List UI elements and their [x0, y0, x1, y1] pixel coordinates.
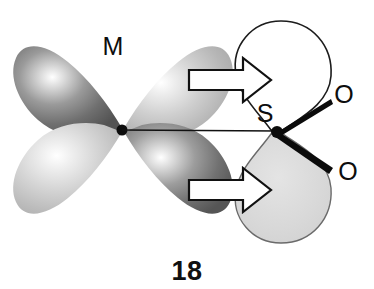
- sulfur-center-dot: [271, 126, 283, 138]
- diagram-canvas: M S O O 18: [0, 0, 374, 289]
- bond-metal-sulfur: [122, 130, 277, 131]
- atom-label-sulfur: S: [257, 99, 274, 127]
- metal-lobe-lower-left: [13, 123, 122, 214]
- orbital-interaction-figure: M S O O 18: [0, 0, 374, 289]
- figure-number-label: 18: [171, 256, 202, 286]
- atom-label-oxygen-upper: O: [334, 80, 353, 108]
- atom-label-metal: M: [103, 32, 124, 60]
- metal-lobe-upper-right: [124, 46, 233, 137]
- atom-label-oxygen-lower: O: [338, 157, 357, 185]
